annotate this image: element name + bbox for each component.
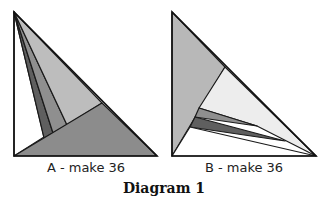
figure-b-label: B - make 36: [172, 160, 316, 175]
figure-a-triangle-block: [14, 12, 157, 156]
figure-a-label: A - make 36: [14, 160, 158, 175]
figure-b-triangle-block: [172, 12, 316, 156]
diagram-caption: Diagram 1: [0, 180, 328, 196]
